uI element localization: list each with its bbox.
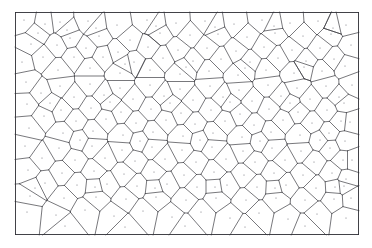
seed-point	[132, 98, 133, 99]
seed-point	[210, 109, 211, 110]
seed-point	[179, 73, 180, 74]
seed-point	[166, 183, 167, 184]
seed-point	[24, 145, 25, 146]
seed-point	[256, 186, 257, 187]
seed-point	[321, 70, 322, 71]
seed-point	[345, 178, 346, 179]
seed-point	[159, 32, 160, 33]
seed-point	[136, 185, 137, 186]
seed-point	[199, 139, 200, 140]
seed-point	[342, 159, 343, 160]
seed-point	[41, 157, 42, 158]
seed-point	[233, 23, 234, 24]
seed-point	[237, 74, 238, 75]
seed-point	[284, 159, 285, 160]
seed-point	[121, 149, 122, 150]
seed-point	[120, 111, 121, 112]
seed-point	[200, 211, 201, 212]
seed-point	[56, 44, 57, 45]
seed-point	[37, 32, 38, 33]
seed-point	[149, 69, 150, 70]
seed-point	[79, 139, 80, 140]
seed-point	[243, 174, 244, 175]
seed-point	[343, 185, 344, 186]
seed-point	[113, 215, 114, 216]
seed-point	[319, 139, 320, 140]
seed-point	[104, 157, 105, 158]
seed-point	[44, 182, 45, 183]
seed-point	[89, 67, 90, 68]
seed-point	[58, 147, 59, 148]
seed-point	[29, 195, 30, 196]
seed-point	[59, 21, 60, 22]
seed-point	[192, 60, 193, 61]
seed-point	[62, 132, 63, 133]
seed-point	[84, 209, 85, 210]
seed-point	[75, 120, 76, 121]
seed-point	[309, 98, 310, 99]
seed-point	[106, 183, 107, 184]
seed-point	[119, 87, 120, 88]
seed-point	[315, 187, 316, 188]
seed-point	[125, 198, 126, 199]
seed-point	[334, 186, 335, 187]
seed-point	[222, 96, 223, 97]
seed-point	[142, 210, 143, 211]
seed-point	[169, 102, 170, 103]
seed-point	[60, 109, 61, 110]
seed-point	[164, 158, 165, 159]
seed-point	[150, 108, 151, 109]
seed-point	[179, 88, 180, 89]
seed-point	[235, 50, 236, 51]
seed-point	[297, 111, 298, 112]
seed-point	[244, 67, 245, 68]
seed-point	[287, 218, 288, 219]
seed-point	[344, 140, 345, 141]
seed-point	[124, 63, 125, 64]
seed-point	[340, 120, 341, 121]
seed-point	[224, 120, 225, 121]
seed-point	[139, 140, 140, 141]
seed-point	[217, 33, 218, 34]
seed-point	[273, 172, 274, 173]
seed-point	[273, 25, 274, 26]
seed-point	[209, 85, 210, 86]
seed-point	[25, 81, 26, 82]
seed-point	[251, 100, 252, 101]
seed-point	[267, 84, 268, 85]
seed-point	[165, 119, 166, 120]
seed-point	[238, 89, 239, 90]
seed-point	[330, 33, 331, 34]
seed-point	[85, 47, 86, 48]
seed-point	[253, 124, 254, 125]
seed-point	[192, 99, 193, 100]
seed-point	[122, 134, 123, 135]
seed-point	[246, 36, 247, 37]
seed-point	[155, 196, 156, 197]
seed-point	[44, 23, 45, 24]
seed-point	[313, 161, 314, 162]
seed-point	[163, 95, 164, 96]
seed-point	[49, 102, 50, 103]
seed-point	[304, 199, 305, 200]
seed-point	[182, 135, 183, 136]
seed-point	[185, 199, 186, 200]
seed-point	[305, 60, 306, 61]
seed-point	[345, 217, 346, 218]
seed-point	[181, 149, 182, 150]
seed-point	[95, 27, 96, 28]
seed-point	[229, 217, 230, 218]
seed-point	[220, 58, 221, 59]
seed-point	[244, 226, 245, 227]
seed-point	[184, 225, 185, 226]
seed-point	[63, 197, 64, 198]
seed-point	[303, 66, 304, 67]
seed-point	[189, 34, 190, 35]
seed-point	[319, 47, 320, 48]
seed-point	[285, 184, 286, 185]
seed-point	[333, 198, 334, 199]
seed-point	[93, 170, 94, 171]
seed-point	[263, 46, 264, 47]
seed-point	[89, 83, 90, 84]
seed-point	[119, 72, 120, 73]
